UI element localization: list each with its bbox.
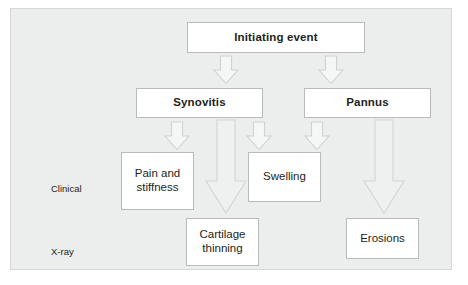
node-pannus[interactable]: Pannus (304, 88, 431, 118)
arrow-initiating-to-synovitis-icon (213, 55, 239, 85)
node-erosions[interactable]: Erosions (346, 218, 419, 259)
arrow-pannus-to-swelling-icon (304, 121, 330, 151)
row-label-clinical: Clinical (51, 183, 82, 194)
node-cartilage-thinning[interactable]: Cartilage thinning (186, 218, 259, 266)
node-initiating-event[interactable]: Initiating event (187, 22, 365, 53)
arrow-synovitis-to-swelling-icon (246, 121, 272, 151)
diagram-root: Clinical X-ray Initiating event Synoviti… (0, 0, 468, 285)
node-pain-and-stiffness[interactable]: Pain and stiffness (121, 152, 194, 210)
node-synovitis[interactable]: Synovitis (136, 88, 263, 118)
diagram-panel: Clinical X-ray Initiating event Synoviti… (10, 8, 452, 270)
arrow-pannus-to-erosions-icon (363, 119, 405, 215)
arrow-synovitis-to-cartilage-icon (205, 119, 247, 215)
row-label-xray: X-ray (51, 246, 74, 257)
node-swelling[interactable]: Swelling (248, 152, 321, 202)
arrow-initiating-to-pannus-icon (318, 55, 344, 85)
arrow-synovitis-to-pain-icon (164, 121, 190, 151)
